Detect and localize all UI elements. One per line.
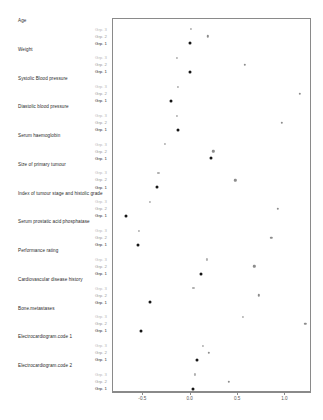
dotplot-chart: AgeGrp. 3Grp. 2Grp. 1WeightGrp. 3Grp. 2G… <box>0 0 323 420</box>
variable-group: AgeGrp. 3Grp. 2Grp. 1 <box>0 18 323 47</box>
variable-label: Weight <box>18 48 33 53</box>
variable-group: Cardiovascular disease historyGrp. 3Grp.… <box>0 277 323 306</box>
data-point <box>188 71 191 74</box>
x-axis-tick <box>190 392 191 395</box>
data-point <box>177 86 179 88</box>
variable-group: Electrocardiogram.code 2Grp. 3Grp. 2Grp.… <box>0 363 323 392</box>
data-point <box>194 373 196 375</box>
variable-group: Serum haemoglobinGrp. 3Grp. 2Grp. 1 <box>0 133 323 162</box>
data-point <box>242 316 244 318</box>
data-point <box>149 201 151 203</box>
data-point <box>277 208 279 210</box>
variable-label: Bone.metastases <box>18 307 55 312</box>
data-point <box>234 179 236 181</box>
variable-group: Performance ratingGrp. 3Grp. 2Grp. 1 <box>0 248 323 277</box>
variable-group: Serum prostatic acid phosphataseGrp. 3Gr… <box>0 219 323 248</box>
data-point <box>140 330 143 333</box>
data-point <box>188 42 191 45</box>
data-point <box>136 243 139 246</box>
data-point <box>207 352 209 354</box>
variable-group: Bone.metastasesGrp. 3Grp. 2Grp. 1 <box>0 306 323 335</box>
data-point <box>200 272 203 275</box>
data-point <box>155 186 158 189</box>
variable-label: Performance rating <box>18 249 58 254</box>
data-point <box>227 380 229 382</box>
variable-group: Systolic Blood pressureGrp. 3Grp. 2Grp. … <box>0 76 323 105</box>
data-point <box>209 157 212 160</box>
variable-group: Electrocardiogram.code 1Grp. 3Grp. 2Grp.… <box>0 334 323 363</box>
x-axis-tick-label: 0.0 <box>187 397 193 402</box>
variable-group: Index of tumour stage and histolic grade… <box>0 191 323 220</box>
variable-group: Diastolic blood pressureGrp. 3Grp. 2Grp.… <box>0 104 323 133</box>
variable-group: Size of primary tumourGrp. 3Grp. 2Grp. 1 <box>0 162 323 191</box>
data-point <box>196 358 199 361</box>
data-point <box>298 93 300 95</box>
data-point <box>177 128 180 131</box>
data-point <box>243 64 245 66</box>
data-point <box>148 301 151 304</box>
data-point <box>169 99 172 102</box>
data-point <box>212 150 214 152</box>
variable-label: Electrocardiogram.code 1 <box>18 335 72 340</box>
data-point <box>157 172 159 174</box>
variable-label: Diastolic blood pressure <box>18 105 69 110</box>
data-point <box>176 115 178 117</box>
x-axis-tick-label: 0.5 <box>234 397 240 402</box>
data-point <box>192 387 195 390</box>
data-point <box>304 323 306 325</box>
data-point <box>270 236 272 238</box>
variable-label: Index of tumour stage and histolic grade <box>18 192 103 197</box>
variable-label: Age <box>18 19 26 24</box>
data-point <box>192 287 194 289</box>
variable-group: WeightGrp. 3Grp. 2Grp. 1 <box>0 47 323 76</box>
x-axis-tick-label: 1.0 <box>281 397 287 402</box>
x-axis-tick <box>284 392 285 395</box>
data-point <box>258 294 260 296</box>
x-axis-tick-label: -0.5 <box>138 397 146 402</box>
data-point <box>164 143 166 145</box>
x-axis-tick <box>142 392 143 395</box>
data-point <box>253 265 255 267</box>
group-row-label: Grp. 1 <box>79 385 107 392</box>
data-point <box>125 214 128 217</box>
data-point <box>202 345 204 347</box>
variable-label: Serum prostatic acid phosphatase <box>18 220 90 225</box>
variable-label: Systolic Blood pressure <box>18 77 68 82</box>
data-point <box>176 57 178 59</box>
variable-label: Cardiovascular disease history <box>18 278 83 283</box>
data-point <box>137 230 139 232</box>
data-point <box>190 28 192 30</box>
data-point <box>207 35 209 37</box>
variable-label: Size of primary tumour <box>18 163 66 168</box>
variable-label: Serum haemoglobin <box>18 134 60 139</box>
data-point <box>280 121 282 123</box>
variable-label: Electrocardiogram.code 2 <box>18 364 72 369</box>
data-point <box>206 258 208 260</box>
x-axis-tick <box>237 392 238 395</box>
